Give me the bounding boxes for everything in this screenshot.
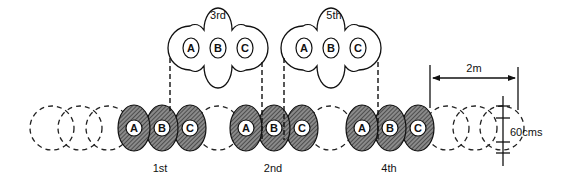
unit-a-label: A xyxy=(187,42,195,54)
group-5th: A B C 5th xyxy=(281,8,381,88)
unit-a-label: A xyxy=(130,122,138,134)
unit-c-label: C xyxy=(354,42,362,54)
group-label-5th: 5th xyxy=(326,9,341,21)
unit-a-label: A xyxy=(300,42,308,54)
group-3rd: A B C 3rd xyxy=(168,8,268,88)
unit-c-label: C xyxy=(241,42,249,54)
unit-b-label: B xyxy=(214,42,222,54)
group-label-3rd: 3rd xyxy=(210,9,226,21)
unit-a-label: A xyxy=(358,122,366,134)
unit-b-label: B xyxy=(386,122,394,134)
unit-b-label: B xyxy=(158,122,166,134)
placeholder-circles-left xyxy=(30,106,130,150)
unit-b-label: B xyxy=(270,122,278,134)
height-dimension-label: 60cms xyxy=(510,126,543,138)
group-label-2nd: 2nd xyxy=(264,162,282,174)
width-dimension-label: 2m xyxy=(466,62,481,74)
height-dimension xyxy=(496,96,510,166)
unit-c-label: C xyxy=(186,122,194,134)
unit-c-label: C xyxy=(298,122,306,134)
group-label-1st: 1st xyxy=(153,162,168,174)
unit-b-label: B xyxy=(327,42,335,54)
group-4th: A B C 4th xyxy=(346,105,434,174)
unit-c-label: C xyxy=(414,122,422,134)
unit-a-label: A xyxy=(242,122,250,134)
pass-sequence-diagram: A B C 1st A B C 2nd A B C 4th A B xyxy=(0,0,572,183)
group-label-4th: 4th xyxy=(381,162,396,174)
group-1st: A B C 1st xyxy=(118,105,206,174)
group-2nd: A B C 2nd xyxy=(230,105,318,174)
